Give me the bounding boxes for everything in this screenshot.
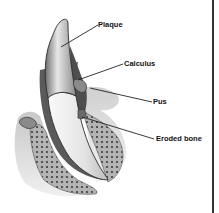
- tooth-diagram: Plaque Calculus Pus Eroded bone: [0, 0, 219, 213]
- calculus-pointer: [78, 64, 123, 80]
- tooth-illustration: [0, 0, 219, 213]
- label-plaque: Plaque: [98, 21, 123, 29]
- label-calculus: Calculus: [124, 60, 155, 68]
- frame-border-line: [212, 0, 214, 213]
- label-pus: Pus: [153, 98, 167, 106]
- label-eroded-bone: Eroded bone: [156, 135, 202, 143]
